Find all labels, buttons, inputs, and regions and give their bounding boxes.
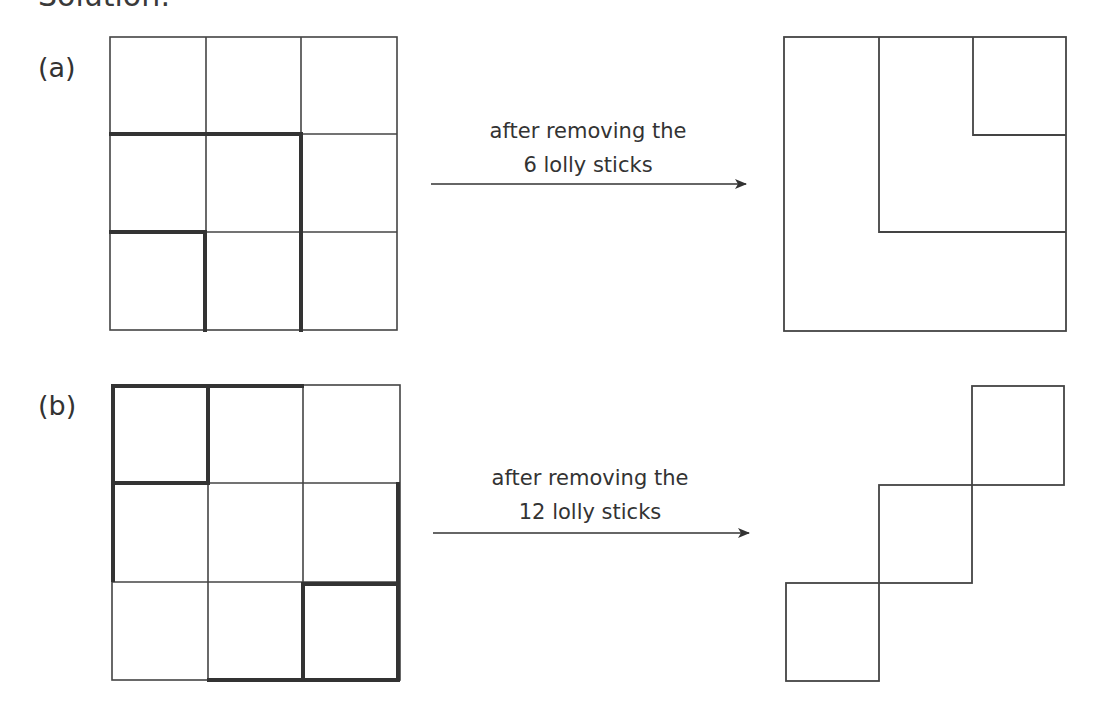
part-b-original-grid bbox=[112, 385, 400, 680]
lolly-stick-diagram bbox=[0, 0, 1095, 713]
part-a-result-figure bbox=[784, 37, 1066, 331]
part-b-result-figure bbox=[786, 386, 1064, 681]
part-a-original-grid bbox=[110, 37, 397, 330]
part-b-removed-sticks bbox=[113, 386, 398, 680]
